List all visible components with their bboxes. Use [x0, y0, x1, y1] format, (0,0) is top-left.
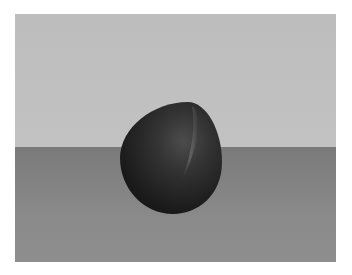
egg-object: [118, 100, 224, 215]
render-frame: [15, 14, 336, 262]
